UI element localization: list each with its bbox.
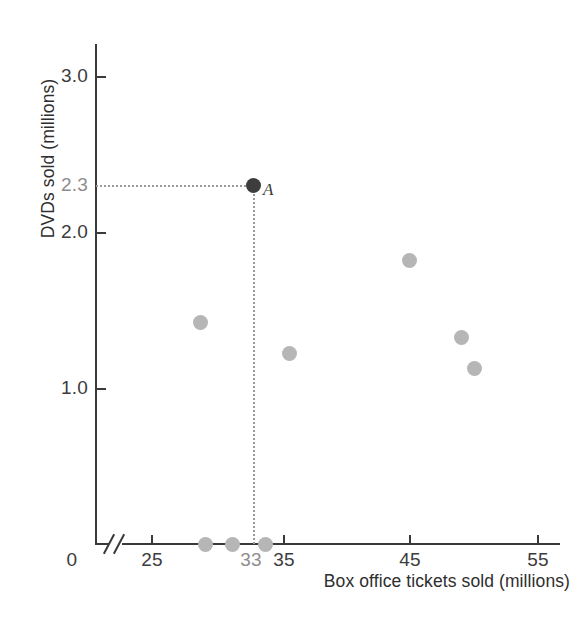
axis-data-point — [225, 537, 240, 552]
x-tick-45 — [409, 535, 411, 544]
y-tick-label-1.0: 1.0 — [30, 377, 88, 399]
x-tick-35 — [283, 535, 285, 544]
data-point — [193, 315, 208, 330]
y-tick-2.0 — [97, 232, 106, 234]
y-tick-label-2.0: 2.0 — [30, 221, 88, 243]
y-tick-label-3.0: 3.0 — [30, 65, 88, 87]
guide-line-vertical-33 — [253, 186, 255, 544]
axis-data-point — [198, 537, 213, 552]
data-point — [467, 361, 482, 376]
axis-data-point — [258, 537, 273, 552]
data-point-a — [246, 178, 261, 193]
x-tick-25 — [151, 535, 153, 544]
x-tick-label-35: 35 — [264, 549, 304, 571]
scatter-plot-figure: DVDs sold (millions) Box office tickets … — [0, 0, 582, 619]
x-tick-55 — [537, 535, 539, 544]
x-tick-label-55: 55 — [518, 549, 558, 571]
x-tick-label-25: 25 — [132, 549, 172, 571]
x-tick-label-0: 0 — [52, 549, 92, 571]
y-tick-3.0 — [97, 76, 106, 78]
data-point — [454, 330, 469, 345]
data-point — [282, 346, 297, 361]
y-tick-label-2.3: 2.3 — [30, 174, 88, 196]
x-axis-title: Box office tickets sold (millions) — [0, 571, 570, 592]
data-point — [402, 253, 417, 268]
guide-line-horizontal-2.3 — [96, 185, 254, 187]
y-axis-line — [95, 44, 97, 544]
y-tick-1.0 — [97, 388, 106, 390]
x-axis-line — [122, 543, 560, 545]
x-tick-label-45: 45 — [390, 549, 430, 571]
data-point-a-label: A — [263, 180, 273, 200]
